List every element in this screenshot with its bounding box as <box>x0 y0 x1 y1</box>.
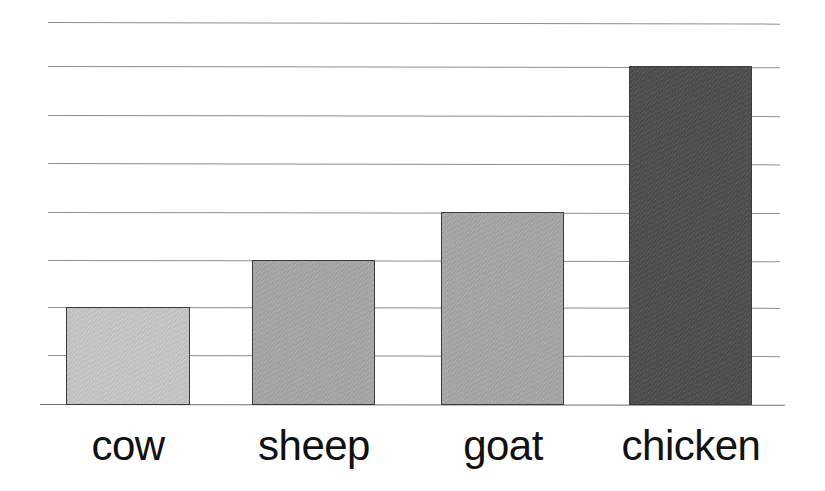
bar-chart-figure: cow sheep goat chicken <box>0 0 825 491</box>
plot-area <box>0 0 825 410</box>
category-axis-labels: cow sheep goat chicken <box>0 410 825 491</box>
category-label-goat: goat <box>436 418 570 474</box>
category-label-cow: cow <box>66 418 190 474</box>
bar-cow <box>66 307 190 405</box>
category-label-chicken: chicken <box>608 418 774 474</box>
bar-chicken <box>629 66 752 405</box>
bar-goat <box>441 212 564 405</box>
bar-sheep <box>252 260 375 405</box>
gridline-8 <box>48 22 780 25</box>
category-label-sheep: sheep <box>244 418 384 474</box>
